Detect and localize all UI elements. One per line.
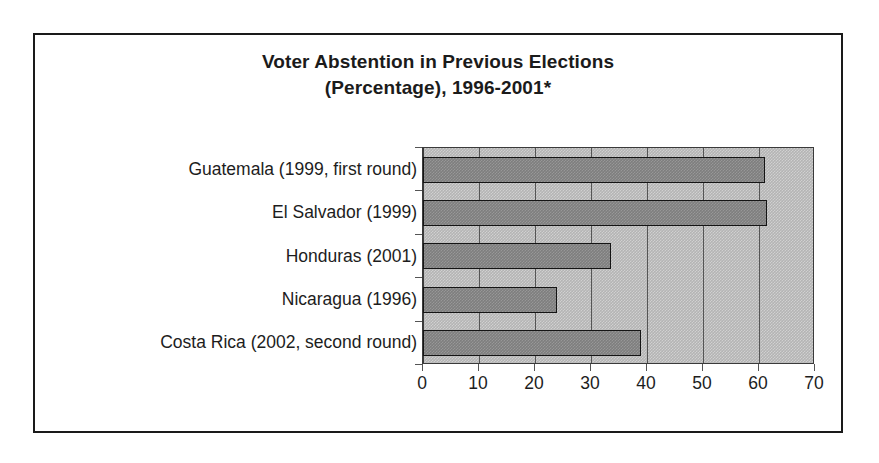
y-axis-category-labels: Guatemala (1999, first round)El Salvador… xyxy=(45,147,417,364)
plot-area xyxy=(422,147,814,364)
y-axis-label: Costa Rica (2002, second round) xyxy=(160,332,417,352)
y-axis-tick xyxy=(415,190,422,191)
bar xyxy=(423,287,557,313)
x-axis-tick-0 xyxy=(422,364,423,371)
y-axis-tick xyxy=(415,321,422,322)
y-axis-label: Honduras (2001) xyxy=(286,246,417,266)
x-axis-label-70: 70 xyxy=(804,373,823,393)
x-axis-label-10: 10 xyxy=(468,373,487,393)
x-axis-tick-40 xyxy=(646,364,647,371)
y-axis-label: Nicaragua (1996) xyxy=(282,289,417,309)
bar-band xyxy=(423,235,813,278)
bar-band xyxy=(423,322,813,364)
y-axis-label: Guatemala (1999, first round) xyxy=(188,159,417,179)
bar-band xyxy=(423,191,813,234)
y-axis-tick xyxy=(415,277,422,278)
y-axis-tick xyxy=(415,364,422,365)
y-axis-label: El Salvador (1999) xyxy=(272,202,417,222)
chart-title-line-2: (Percentage), 1996-2001* xyxy=(35,75,841,101)
chart-title-line-1: Voter Abstention in Previous Elections xyxy=(262,51,614,72)
x-axis-tick-10 xyxy=(478,364,479,371)
x-axis-tick-20 xyxy=(534,364,535,371)
y-axis-tick xyxy=(415,147,422,148)
y-axis-tick xyxy=(415,234,422,235)
chart-title: Voter Abstention in Previous Elections (… xyxy=(35,49,841,101)
bar xyxy=(423,200,767,226)
bar-band xyxy=(423,148,813,191)
bar xyxy=(423,243,611,269)
x-axis-label-50: 50 xyxy=(692,373,711,393)
bar-band xyxy=(423,278,813,321)
x-axis-tick-70 xyxy=(814,364,815,371)
x-axis-label-60: 60 xyxy=(748,373,767,393)
x-axis-label-40: 40 xyxy=(636,373,655,393)
x-axis-label-20: 20 xyxy=(524,373,543,393)
x-axis-tick-60 xyxy=(758,364,759,371)
bar xyxy=(423,157,765,183)
chart-figure-frame: Voter Abstention in Previous Elections (… xyxy=(33,33,843,433)
x-axis-label-30: 30 xyxy=(580,373,599,393)
x-axis-label-0: 0 xyxy=(417,373,427,393)
x-axis-tick-30 xyxy=(590,364,591,371)
bar xyxy=(423,330,641,356)
x-axis-tick-50 xyxy=(702,364,703,371)
